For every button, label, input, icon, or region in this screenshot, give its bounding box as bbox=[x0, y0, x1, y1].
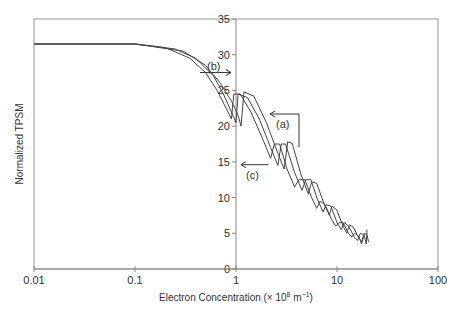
y-tick-label: 20 bbox=[218, 120, 230, 132]
y-tick-label: 5 bbox=[224, 227, 230, 239]
annotation-a: (a) bbox=[276, 118, 289, 130]
x-axis: 0.010.1110100 bbox=[23, 266, 447, 286]
x-tick-label: 10 bbox=[331, 274, 343, 286]
x-tick-label: 0.01 bbox=[23, 274, 44, 286]
x-tick-label: 100 bbox=[429, 274, 447, 286]
x-tick-label: 1 bbox=[233, 274, 239, 286]
x-axis-label: Electron Concentration (× 108 m−1) bbox=[159, 291, 313, 303]
y-tick-label: 35 bbox=[218, 13, 230, 25]
y-tick-label: 10 bbox=[218, 192, 230, 204]
y-axis-label: Normalized TPSM bbox=[14, 104, 25, 185]
y-tick-label: 15 bbox=[218, 156, 230, 168]
chart: 05101520253035 0.010.1110100 (b)(a)(c) N… bbox=[0, 0, 463, 313]
x-tick-label: 0.1 bbox=[127, 274, 142, 286]
annotation-c: (c) bbox=[246, 169, 259, 181]
annotation-b: (b) bbox=[207, 60, 220, 72]
